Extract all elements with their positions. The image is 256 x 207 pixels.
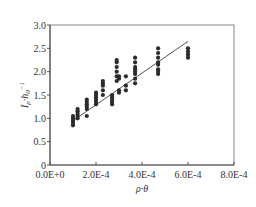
x-tick-label: 2.0E-4 bbox=[83, 169, 110, 180]
data-point bbox=[76, 107, 80, 111]
data-point bbox=[101, 93, 105, 97]
data-point bbox=[133, 77, 137, 81]
data-point bbox=[133, 65, 137, 69]
data-point bbox=[133, 56, 137, 60]
y-tick-label: 3.0 bbox=[34, 20, 47, 31]
y-tick-label: 2.0 bbox=[34, 66, 47, 77]
data-point bbox=[133, 81, 137, 85]
plot-border bbox=[50, 25, 234, 165]
data-points bbox=[71, 46, 190, 127]
y-axis-title: Ip·h0−1 bbox=[18, 82, 32, 109]
y-tick-label: 1.5 bbox=[34, 90, 47, 101]
x-tick-label: 4.0E-4 bbox=[129, 169, 156, 180]
plot-frame bbox=[50, 25, 234, 165]
x-tick-label: 0.0E+0 bbox=[35, 169, 64, 180]
fit-line bbox=[73, 41, 188, 120]
y-tick-label: 1.0 bbox=[34, 113, 47, 124]
data-point bbox=[85, 114, 89, 118]
x-tick-label: 6.0E-4 bbox=[175, 169, 202, 180]
svg-text:Ip·h0−1: Ip·h0−1 bbox=[18, 82, 32, 109]
y-tick-label: 2.5 bbox=[34, 43, 47, 54]
data-point bbox=[110, 93, 114, 97]
data-point bbox=[71, 114, 75, 118]
data-point bbox=[156, 67, 160, 71]
data-point bbox=[186, 46, 190, 50]
data-point bbox=[85, 98, 89, 102]
data-point bbox=[115, 65, 119, 69]
data-point bbox=[101, 88, 105, 92]
scatter-chart: 00.51.01.52.02.53.00.0E+02.0E-44.0E-46.0… bbox=[0, 0, 256, 207]
y-tick-label: 0.5 bbox=[34, 136, 47, 147]
x-tick-label: 8.0E-4 bbox=[221, 169, 248, 180]
axis-ticks: 00.51.01.52.02.53.00.0E+02.0E-44.0E-46.0… bbox=[34, 20, 248, 181]
data-point bbox=[115, 58, 119, 62]
data-point bbox=[133, 60, 137, 64]
data-point bbox=[94, 91, 98, 95]
data-point bbox=[124, 84, 128, 88]
data-point bbox=[124, 74, 128, 78]
data-point bbox=[117, 88, 121, 92]
data-point bbox=[101, 79, 105, 83]
data-point bbox=[115, 70, 119, 74]
x-axis-title: ρ·θ bbox=[135, 183, 148, 194]
data-point bbox=[124, 88, 128, 92]
data-point bbox=[156, 56, 160, 60]
data-point bbox=[156, 60, 160, 64]
data-point bbox=[156, 51, 160, 55]
data-point bbox=[117, 74, 121, 78]
data-point bbox=[156, 46, 160, 50]
